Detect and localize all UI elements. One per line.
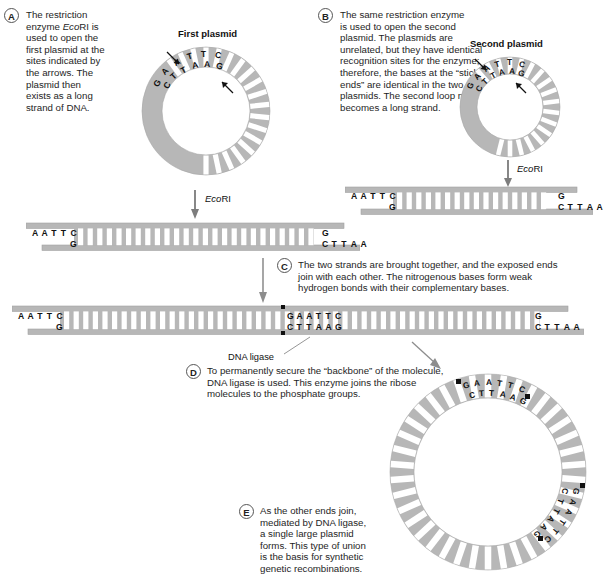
panel-a-line-9: strand of DNA. bbox=[26, 102, 90, 113]
caption-second-plasmid: Second plasmid bbox=[470, 38, 543, 49]
join-arrow bbox=[258, 258, 268, 304]
base-letter: G bbox=[535, 312, 542, 321]
panel-c-line-2: join with each other. The nitrogenous ba… bbox=[298, 271, 532, 282]
base-letter: G bbox=[215, 61, 224, 71]
base-letter: A bbox=[351, 240, 357, 249]
base-letter: G bbox=[56, 323, 63, 332]
base-letter: T bbox=[61, 229, 66, 238]
ligase-mark bbox=[538, 536, 543, 541]
panel-a-line-5: sites indicated by bbox=[26, 55, 100, 66]
base-letter: A bbox=[573, 323, 579, 332]
panel-text-a: The restriction enzyme EcoRI is used to … bbox=[26, 9, 121, 113]
ligase-mark-joined-top bbox=[281, 305, 285, 309]
base-letter: T bbox=[332, 240, 337, 249]
panel-a-line-2: enzyme EcoRI is bbox=[26, 21, 99, 32]
dna-strand-joined bbox=[12, 305, 584, 337]
base-letter: T bbox=[489, 389, 495, 398]
panel-text-c: The two strands are brought together, an… bbox=[298, 259, 598, 294]
base-letter: T bbox=[496, 378, 502, 387]
panel-label-b: B bbox=[318, 8, 333, 23]
panel-label-e: E bbox=[239, 504, 254, 519]
base-letter: T bbox=[545, 323, 550, 332]
panel-b-line-9: becomes a long strand. bbox=[340, 102, 441, 113]
base-letter: A bbox=[509, 68, 515, 77]
panel-d-line-2: DNA ligase is used. This enzyme joins th… bbox=[207, 377, 416, 388]
panel-e-line-6: genetic recombinations. bbox=[260, 563, 362, 574]
panel-b-line-7: ends” are identical in the two bbox=[340, 79, 463, 90]
base-letter: T bbox=[201, 50, 207, 59]
panel-a-line-3: used to open the bbox=[26, 32, 98, 43]
panel-a-line-7: plasmid then bbox=[26, 79, 81, 90]
base-letter: A bbox=[42, 229, 48, 238]
ligase-mark bbox=[456, 379, 461, 384]
plasmid-final-svg bbox=[388, 372, 588, 572]
base-letter: G bbox=[389, 203, 396, 212]
panel-a-line-4: first plasmid at the bbox=[26, 44, 105, 55]
panel-b-line-3: plasmid. The plasmids are bbox=[340, 32, 453, 43]
dna-strand-joined-svg bbox=[12, 305, 584, 337]
base-letter: G bbox=[558, 192, 565, 201]
panel-b-line-8: plasmids. The second loop now bbox=[340, 90, 476, 101]
base-letter: A bbox=[297, 312, 303, 321]
base-letter: T bbox=[479, 389, 485, 398]
base-letter: T bbox=[380, 192, 385, 201]
base-letter: A bbox=[361, 192, 367, 201]
base-letter: C bbox=[335, 312, 341, 321]
base-letter: C bbox=[56, 312, 62, 321]
base-letter: A bbox=[360, 240, 366, 249]
base-letter: G bbox=[287, 312, 294, 321]
base-letter: A bbox=[351, 192, 357, 201]
base-letter: T bbox=[306, 323, 311, 332]
panel-a-line-8: exists as a long bbox=[26, 90, 93, 101]
ecori-label-second: EcoRI bbox=[517, 163, 543, 174]
panel-c-line-3: hydrogen bonds with their complementary … bbox=[298, 282, 509, 293]
base-letter: T bbox=[51, 229, 56, 238]
caption-first-plasmid: First plasmid bbox=[178, 28, 237, 39]
panel-c-line-1: The two strands are brought together, an… bbox=[298, 259, 558, 270]
panel-e-line-2: mediated by DNA ligase, bbox=[260, 517, 366, 528]
base-letter: C bbox=[535, 323, 541, 332]
panel-d-line-3: molecules to the phosphate groups. bbox=[207, 388, 361, 399]
base-letter: A bbox=[32, 229, 38, 238]
base-letter: A bbox=[596, 203, 602, 212]
dna-ligase-leader bbox=[282, 336, 312, 360]
base-letter: A bbox=[18, 312, 24, 321]
base-letter: A bbox=[587, 203, 593, 212]
base-letter: C bbox=[468, 390, 476, 399]
ecori-arrow-first bbox=[190, 190, 200, 220]
panel-label-c: C bbox=[277, 258, 292, 273]
base-letter: T bbox=[568, 203, 573, 212]
ecori-label-first: EcoRI bbox=[205, 193, 231, 204]
base-letter: T bbox=[370, 192, 375, 201]
base-letter: A bbox=[316, 323, 322, 332]
base-letter: A bbox=[306, 312, 312, 321]
base-letter: A bbox=[204, 60, 210, 69]
panel-e-line-1: As the other ends join, bbox=[260, 505, 356, 516]
base-letter: C bbox=[389, 192, 395, 201]
base-letter: C bbox=[558, 203, 564, 212]
label-dna-ligase: DNA ligase bbox=[228, 352, 274, 362]
base-letter: G bbox=[322, 229, 329, 238]
ligase-mark-joined-bottom bbox=[281, 331, 285, 335]
base-letter: T bbox=[37, 312, 42, 321]
ligase-mark bbox=[580, 483, 585, 488]
panel-label-a: A bbox=[4, 8, 19, 23]
cut-arrow-second-bottom bbox=[513, 80, 529, 96]
base-letter: T bbox=[316, 312, 321, 321]
panel-b-line-2: is used to open the second bbox=[340, 21, 456, 32]
base-letter: C bbox=[287, 323, 293, 332]
base-letter: G bbox=[572, 487, 581, 495]
base-letter: A bbox=[564, 323, 570, 332]
base-letter: G bbox=[335, 323, 342, 332]
base-letter: A bbox=[486, 378, 492, 386]
base-letter: T bbox=[297, 323, 302, 332]
panel-a-line-6: the arrows. The bbox=[26, 67, 93, 78]
cut-arrow-first-bottom bbox=[218, 78, 236, 96]
panel-b-line-4: unrelated, but they have identical bbox=[340, 44, 482, 55]
plasmid-circle-final bbox=[388, 372, 588, 572]
base-letter: T bbox=[47, 312, 52, 321]
base-letter: A bbox=[325, 323, 331, 332]
base-letter: T bbox=[341, 240, 346, 249]
panel-e-line-4: forms. This type of union bbox=[260, 540, 366, 551]
base-letter: T bbox=[554, 323, 559, 332]
